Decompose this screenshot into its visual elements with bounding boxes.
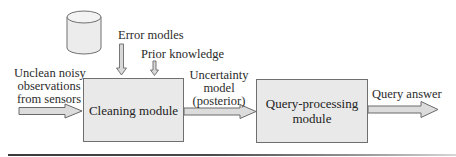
error-models-label: Error modles (118, 29, 184, 42)
prior-knowledge-arrow-icon (151, 61, 159, 76)
query-answer-label: Query answer (372, 88, 442, 101)
error-models-arrow-icon (117, 44, 127, 75)
sensor-input-arrow-icon (19, 104, 82, 118)
sensor-input-label: Unclean noisy observations from sensors (14, 67, 84, 106)
prior-knowledge-label: Prior knowledge (141, 48, 224, 61)
query-module-label-line-2: module (266, 111, 358, 126)
database-cylinder-icon (67, 11, 101, 54)
query-processing-module-box: Query-processing module (256, 79, 368, 143)
sensor-input-label-line-3: from sensors (14, 93, 84, 106)
cleaning-module-label: Cleaning module (89, 103, 178, 118)
query-answer-arrow-icon (368, 102, 438, 118)
uncertainty-model-label: Uncertainty model (posterior) (187, 69, 251, 108)
query-module-label-line-1: Query-processing (266, 96, 358, 111)
bottom-divider (8, 154, 456, 156)
uncertainty-label-line-3: (posterior) (187, 95, 251, 108)
cleaning-module-box: Cleaning module (83, 78, 184, 142)
